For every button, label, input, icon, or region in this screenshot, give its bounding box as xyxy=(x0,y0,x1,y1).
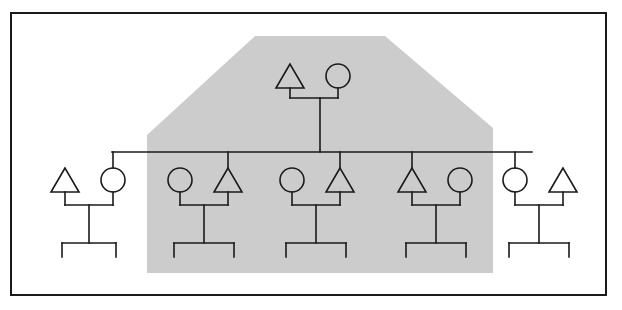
kinship-diagram-canvas xyxy=(0,0,622,310)
kinship-svg xyxy=(0,0,622,310)
